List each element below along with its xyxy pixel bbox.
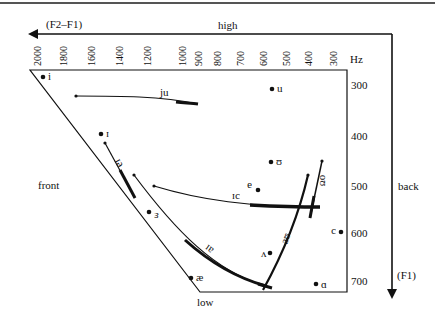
x-tick: 1600 (87, 46, 97, 66)
x-axis-label: (F2–F1) (46, 19, 82, 30)
diphthong-ju: ju (160, 87, 169, 98)
y-tick: 700 (351, 276, 368, 287)
x-tick: 700 (236, 51, 246, 66)
x-tick: 400 (304, 51, 314, 66)
y-tick: 300 (351, 80, 368, 91)
hz-unit-label: Hz (350, 54, 363, 65)
back-label: back (398, 181, 419, 192)
vowel-i: i (48, 71, 51, 82)
vowel-wedge: ʌ (261, 248, 267, 259)
x-tick: 2000 (33, 46, 43, 66)
vowel-ae: æ (196, 272, 203, 283)
vowel-script-a: ɑ (321, 279, 327, 290)
low-label: low (197, 297, 214, 308)
x-tick: 900 (194, 51, 204, 66)
x-tick: 600 (259, 51, 269, 66)
x-tick: 500 (282, 51, 292, 66)
x-tick: 1200 (143, 46, 153, 66)
vowel-schwa: ə (247, 181, 252, 192)
high-label: high (218, 20, 238, 31)
diphthong-oi: ɔɪ (232, 192, 240, 203)
f1-axis-label: (F1) (397, 270, 416, 281)
vowel-open-o: ɔ (331, 227, 336, 238)
vowel-upsilon: ʊ (276, 156, 282, 167)
y-tick: 600 (351, 228, 368, 239)
x-tick: 300 (329, 51, 339, 66)
x-tick: 800 (213, 51, 223, 66)
y-tick: 500 (351, 181, 368, 192)
x-tick: 1000 (178, 46, 188, 66)
vowel-short-i: ɪ (106, 128, 109, 139)
x-tick: 1800 (59, 46, 69, 66)
front-label: front (38, 180, 59, 191)
y-tick: 400 (351, 131, 368, 142)
diphthong-ou: oʊ (318, 175, 329, 187)
vowel-epsilon: ɛ (154, 211, 159, 222)
x-tick: 1400 (115, 46, 125, 66)
vowel-u: u (277, 83, 283, 94)
